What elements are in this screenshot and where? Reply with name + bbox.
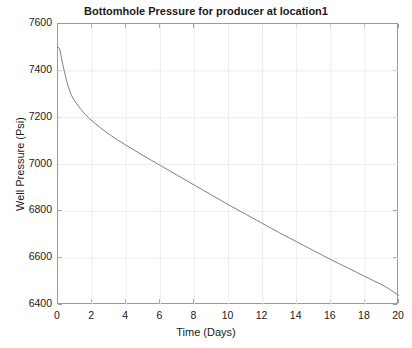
x-tick-label: 10 — [213, 309, 243, 321]
x-tick-label: 16 — [315, 309, 345, 321]
x-tick-label: 6 — [144, 309, 174, 321]
grid-lines — [58, 24, 399, 305]
x-tick-label: 8 — [178, 309, 208, 321]
x-tick-label: 0 — [42, 309, 72, 321]
x-tick-label: 18 — [349, 309, 379, 321]
x-tick-label: 2 — [76, 309, 106, 321]
y-tick-label: 7400 — [2, 63, 52, 75]
x-axis-label: Time (Days) — [0, 326, 412, 338]
figure-canvas: Bottomhole Pressure for producer at loca… — [0, 0, 412, 348]
x-tick-label: 14 — [281, 309, 311, 321]
y-tick-label: 6400 — [2, 297, 52, 309]
y-tick-label: 6800 — [2, 203, 52, 215]
plot-svg — [58, 24, 399, 305]
plot-area — [57, 23, 398, 304]
x-tick-label: 20 — [383, 309, 412, 321]
x-tick-label: 12 — [247, 309, 277, 321]
chart-title: Bottomhole Pressure for producer at loca… — [0, 5, 412, 17]
y-tick-label: 7600 — [2, 16, 52, 28]
y-tick-label: 6600 — [2, 250, 52, 262]
y-tick-label: 7200 — [2, 110, 52, 122]
x-tick-label: 4 — [110, 309, 140, 321]
y-tick-label: 7000 — [2, 157, 52, 169]
